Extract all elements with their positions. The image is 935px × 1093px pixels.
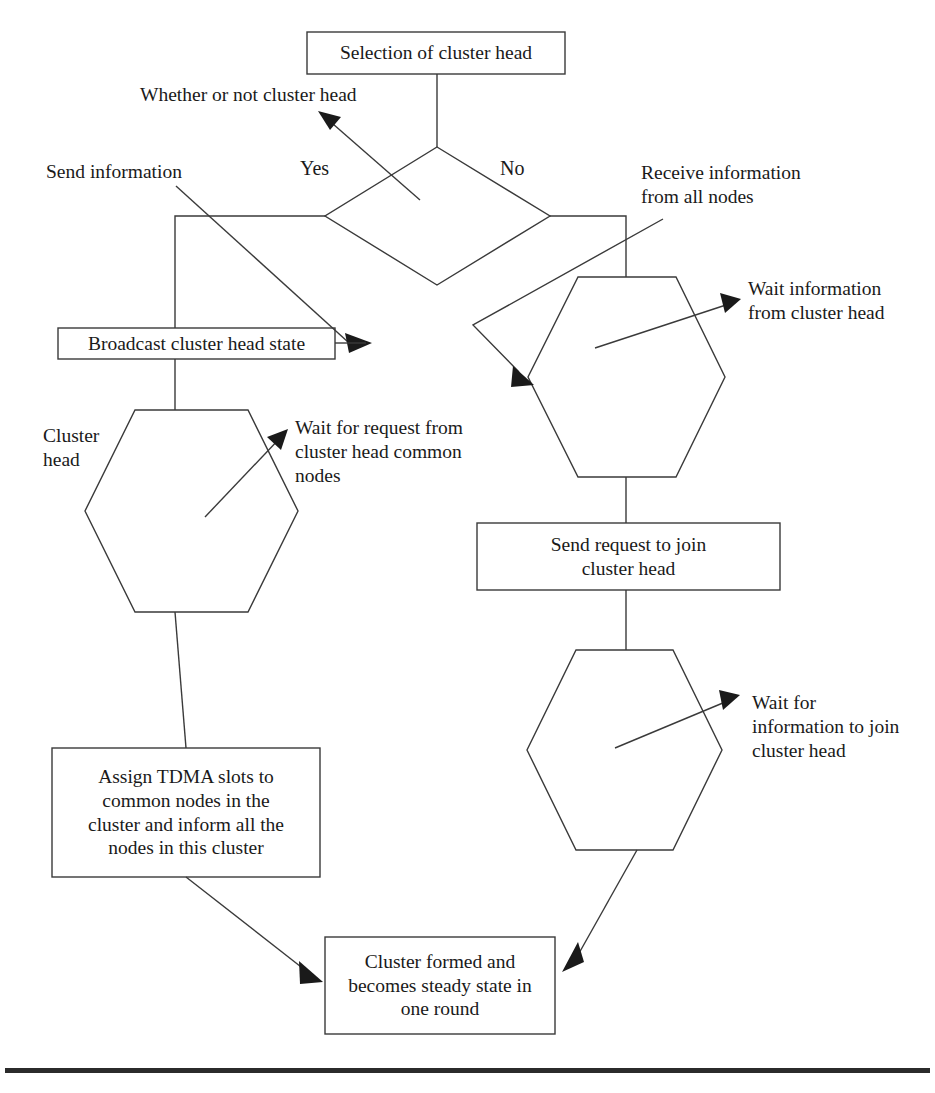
arrowhead-tdma-to-cluster-formed (299, 961, 323, 984)
annotation-cluster-head: Cluster head (43, 424, 99, 472)
annotation-receive-information: Receive information from all nodes (641, 161, 801, 209)
node-left-hexagon[interactable] (85, 410, 298, 612)
annotation-wait-for-information-to-join: Wait for information to join cluster hea… (752, 691, 899, 764)
connector-decision-yes-to-broadcast (175, 216, 325, 328)
node-label-send-request: Send request to join cluster head (477, 523, 780, 590)
branch-label-yes: Yes (300, 157, 329, 180)
annotation-wait-for-request: Wait for request from cluster head commo… (295, 416, 463, 489)
node-label-broadcast: Broadcast cluster head state (58, 328, 335, 359)
annotation-wait-information-from-cluster-head: Wait information from cluster head (748, 277, 884, 325)
arrowhead-wait-for-info-join (719, 690, 740, 710)
connector-hexagon-to-cluster-formed (578, 850, 637, 955)
node-right-hexagon-top[interactable] (528, 277, 725, 477)
node-label-tdma: Assign TDMA slots to common nodes in the… (52, 748, 320, 877)
arrowhead-wait-for-request (267, 429, 288, 450)
annotation-whether-or-not-cluster-head: Whether or not cluster head (140, 83, 357, 107)
leader-send-information (176, 186, 348, 342)
node-label-cluster-formed: Cluster formed and becomes steady state … (325, 937, 555, 1034)
flowchart-canvas: Selection of cluster head Broadcast clus… (0, 0, 935, 1093)
bottom-divider-rule (5, 1068, 930, 1073)
connector-left-hexagon-to-tdma (175, 612, 186, 748)
node-label-selection: Selection of cluster head (307, 32, 565, 74)
arrowhead-hexagon-to-cluster-formed (562, 942, 584, 972)
connector-tdma-to-cluster-formed (186, 877, 305, 970)
annotation-send-information: Send information (46, 160, 182, 184)
branch-label-no: No (500, 157, 524, 180)
node-right-hexagon-bottom[interactable] (527, 650, 722, 850)
arrowhead-wait-information-from-ch (720, 293, 741, 313)
